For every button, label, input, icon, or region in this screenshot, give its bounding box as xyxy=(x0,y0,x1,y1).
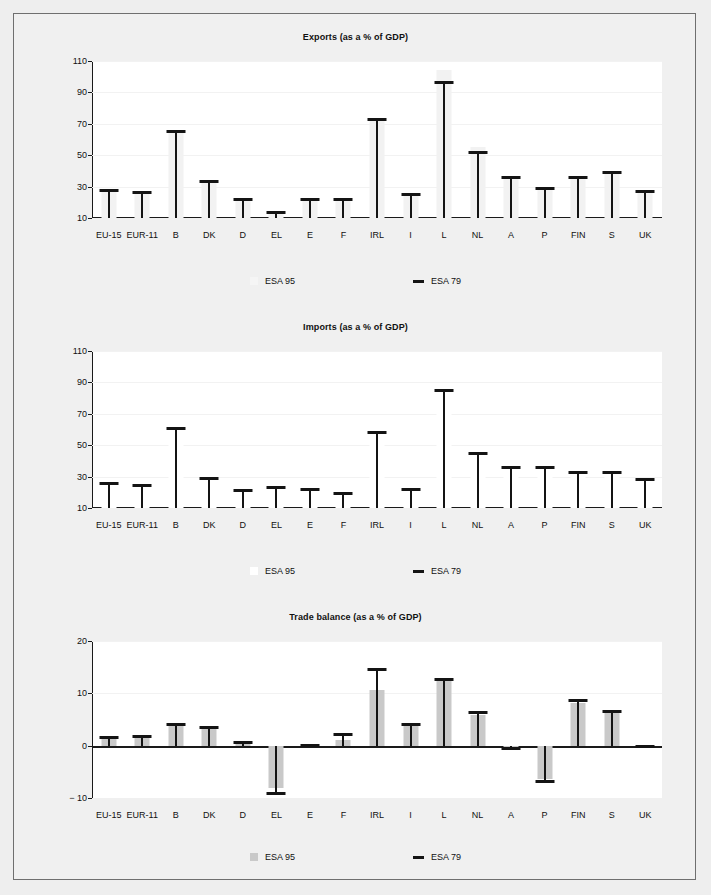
x-axis-label-e: E xyxy=(307,520,313,530)
cap-esa79 xyxy=(502,176,521,179)
bar-group-uk: UK xyxy=(628,351,662,508)
y-axis-tick-label: 110 xyxy=(73,346,87,356)
bar-group-b: B xyxy=(159,61,193,218)
stem-esa79 xyxy=(376,118,378,218)
x-axis-label-p: P xyxy=(542,520,548,530)
x-axis-label-b: B xyxy=(173,810,179,820)
bar-group-d: D xyxy=(226,61,260,218)
bar-group-nl: NL xyxy=(461,61,495,218)
stem-esa79 xyxy=(577,176,579,218)
x-axis-label-l: L xyxy=(442,520,447,530)
bar-group-nl: NL xyxy=(461,641,495,798)
x-axis-label-uk: UK xyxy=(639,810,652,820)
x-axis-label-eur-11: EUR-11 xyxy=(127,810,158,820)
cap-esa79 xyxy=(636,190,655,193)
bar-group-a: A xyxy=(494,641,528,798)
x-axis-label-nl: NL xyxy=(472,230,484,240)
stem-esa79 xyxy=(376,668,378,745)
bar-group-i: I xyxy=(394,641,428,798)
x-axis-label-nl: NL xyxy=(472,520,484,530)
x-axis-label-el: EL xyxy=(271,810,282,820)
cap-esa79 xyxy=(502,747,521,750)
bar-group-fin: FIN xyxy=(561,641,595,798)
x-axis-label-el: EL xyxy=(271,520,282,530)
cap-esa79 xyxy=(166,130,185,133)
x-axis-label-p: P xyxy=(542,810,548,820)
x-axis-label-dk: DK xyxy=(203,230,216,240)
x-axis-label-irl: IRL xyxy=(370,520,384,530)
x-axis-label-eur-11: EUR-11 xyxy=(127,230,158,240)
bar-group-e: E xyxy=(293,641,327,798)
bar-group-l: L xyxy=(427,61,461,218)
cap-esa79 xyxy=(300,488,319,491)
cap-esa79 xyxy=(569,176,588,179)
x-axis-label-a: A xyxy=(508,230,514,240)
x-axis-label-p: P xyxy=(542,230,548,240)
legend-item-esa95-trade-balance: ESA 95 xyxy=(250,852,295,862)
legend-swatch-esa95-icon xyxy=(250,567,258,575)
cap-esa79 xyxy=(468,151,487,154)
y-axis-tick-label: 70 xyxy=(77,119,87,129)
x-axis-label-eu-15: EU-15 xyxy=(96,230,122,240)
cap-esa79 xyxy=(401,488,420,491)
stem-esa79 xyxy=(410,193,412,218)
stem-esa79 xyxy=(544,466,546,508)
stem-esa79 xyxy=(544,746,546,784)
cap-esa79 xyxy=(233,741,252,744)
legend-label-esa95: ESA 95 xyxy=(265,852,295,862)
cap-esa79 xyxy=(334,492,353,495)
cap-esa79 xyxy=(636,745,655,748)
bar-group-i: I xyxy=(394,61,428,218)
y-axis-tick-label: 50 xyxy=(77,150,87,160)
legend-label-esa79: ESA 79 xyxy=(431,276,461,286)
cap-esa79 xyxy=(401,723,420,726)
y-axis-tick-label: 90 xyxy=(77,377,87,387)
bar-group-f: F xyxy=(327,61,361,218)
stem-esa79 xyxy=(175,723,177,746)
y-axis-tick-label: − 10 xyxy=(69,793,87,803)
plot-area-imports: 1030507090110EU-15EUR-11BDKDELEFIRLILNLA… xyxy=(92,351,662,508)
stem-esa79 xyxy=(644,478,646,508)
x-axis-label-e: E xyxy=(307,230,313,240)
bar-group-nl: NL xyxy=(461,351,495,508)
x-axis-label-nl: NL xyxy=(472,810,484,820)
bar-group-eur-11: EUR-11 xyxy=(126,351,160,508)
stem-esa79 xyxy=(275,486,277,508)
legend-swatch-esa79-icon xyxy=(413,856,424,859)
bar-group-f: F xyxy=(327,641,361,798)
x-axis-label-eur-11: EUR-11 xyxy=(127,520,158,530)
x-axis-label-irl: IRL xyxy=(370,230,384,240)
x-axis-label-uk: UK xyxy=(639,230,652,240)
bar-group-l: L xyxy=(427,351,461,508)
plot-area-exports: 1030507090110EU-15EUR-11BDKDELEFIRLILNLA… xyxy=(92,61,662,218)
cap-esa79 xyxy=(300,198,319,201)
bar-group-irl: IRL xyxy=(360,641,394,798)
legend-swatch-esa79-icon xyxy=(413,570,424,573)
x-axis-label-el: EL xyxy=(271,230,282,240)
bar-group-fin: FIN xyxy=(561,351,595,508)
stem-esa79 xyxy=(108,189,110,218)
cap-esa79 xyxy=(334,733,353,736)
chart-panel-trade-balance: Trade balance (as a % of GDP) − 1001020E… xyxy=(14,594,697,881)
stem-esa79 xyxy=(208,477,210,508)
cap-esa79 xyxy=(435,81,454,84)
plot-area-trade-balance: − 1001020EU-15EUR-11BDKDELEFIRLILNLAPFIN… xyxy=(92,641,662,798)
y-axis-tick-label: 0 xyxy=(82,741,87,751)
bar-group-irl: IRL xyxy=(360,61,394,218)
bar-group-s: S xyxy=(595,61,629,218)
x-axis-label-f: F xyxy=(341,520,347,530)
cap-esa79 xyxy=(569,699,588,702)
bar-group-eu-15: EU-15 xyxy=(92,641,126,798)
bar-group-i: I xyxy=(394,351,428,508)
stem-esa79 xyxy=(477,452,479,508)
x-axis-label-f: F xyxy=(341,230,347,240)
y-axis-tick-label: 50 xyxy=(77,440,87,450)
chart-title-trade-balance: Trade balance (as a % of GDP) xyxy=(14,612,697,622)
stem-esa79 xyxy=(544,187,546,218)
cap-esa79 xyxy=(367,668,386,671)
y-axis-tick-label: 10 xyxy=(77,688,87,698)
cap-esa79 xyxy=(233,489,252,492)
bar-group-p: P xyxy=(528,641,562,798)
x-axis-label-l: L xyxy=(442,230,447,240)
bar-group-a: A xyxy=(494,61,528,218)
